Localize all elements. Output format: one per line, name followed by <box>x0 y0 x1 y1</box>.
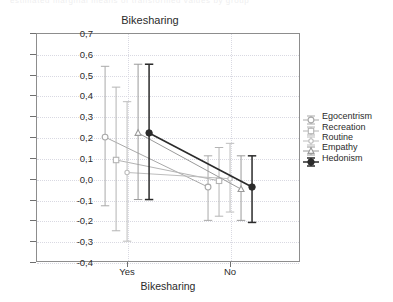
y-axis-tick-mark <box>30 200 36 201</box>
y-axis-tick-mark <box>30 54 36 55</box>
y-axis-tick-mark <box>30 137 36 138</box>
legend: EgocentrismRecreationRoutineEmpathyHedon… <box>303 111 393 163</box>
x-axis-tick-mark <box>230 262 231 267</box>
legend-label: Recreation <box>322 122 366 132</box>
y-axis-tick-mark <box>30 220 36 221</box>
y-axis-tick-mark <box>30 95 36 96</box>
y-axis-tick-label: -0,3 <box>33 236 93 247</box>
legend-item-egocentrism: Egocentrism <box>303 111 393 121</box>
y-axis-tick-mark <box>30 75 36 76</box>
legend-item-recreation: Recreation <box>303 121 393 131</box>
y-axis-tick-mark <box>30 116 36 117</box>
legend-marker-circle-filled-icon <box>303 153 319 163</box>
y-axis-tick-label: -0,1 <box>33 194 93 205</box>
cropped-header-label: estimated marginal means of transformed … <box>10 0 249 5</box>
legend-marker-circle-small-icon <box>303 132 319 142</box>
data-point-marker-circle-filled <box>308 159 314 165</box>
y-axis-tick-label: 0,5 <box>33 69 93 80</box>
legend-label: Empathy <box>322 142 358 152</box>
cropped-header-text: estimated marginal means of transformed … <box>0 0 393 10</box>
y-axis-tick-label: 0,0 <box>33 173 93 184</box>
plot-area <box>36 33 300 262</box>
legend-item-routine: Routine <box>303 132 393 142</box>
x-axis-title: Bikesharing <box>36 280 300 292</box>
legend-item-empathy: Empathy <box>303 142 393 152</box>
y-axis-tick-label: 0,2 <box>33 132 93 143</box>
y-axis-tick-label: 0,6 <box>33 48 93 59</box>
x-axis-tick-label: No <box>224 266 236 277</box>
y-axis-tick-mark <box>30 33 36 34</box>
y-axis-tick-label: 0,3 <box>33 111 93 122</box>
x-axis-tick-mark <box>127 262 128 267</box>
y-axis-tick-label: 0,1 <box>33 152 93 163</box>
chart-title: Bikesharing <box>0 14 300 26</box>
legend-marker-square-open-icon <box>303 122 319 132</box>
gridline-vertical <box>128 34 129 261</box>
y-axis-tick-mark <box>30 241 36 242</box>
x-axis-tick-label: Yes <box>119 266 135 277</box>
chart-figure: estimated marginal means of transformed … <box>0 0 393 302</box>
y-axis-tick-label: 0,7 <box>33 28 93 39</box>
legend-marker-circle-open-icon <box>303 111 319 121</box>
y-axis-tick-label: -0,4 <box>33 257 93 268</box>
legend-label: Hedonism <box>322 153 363 163</box>
y-axis-tick-mark <box>30 262 36 263</box>
gridline-vertical <box>231 34 232 261</box>
legend-item-hedonism: Hedonism <box>303 153 393 163</box>
legend-marker-triangle-icon <box>303 142 319 152</box>
y-axis-tick-mark <box>30 179 36 180</box>
legend-label: Routine <box>322 132 353 142</box>
legend-label: Egocentrism <box>322 111 372 121</box>
y-axis-tick-mark <box>30 158 36 159</box>
y-axis-tick-label: 0,4 <box>33 90 93 101</box>
y-axis-tick-label: -0,2 <box>33 215 93 226</box>
